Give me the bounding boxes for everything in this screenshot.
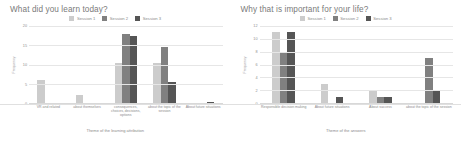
- legend-swatch-icon: [300, 16, 305, 21]
- legend-item-right-1[interactable]: Session 1: [300, 16, 326, 21]
- legend-label: Session 1: [307, 16, 325, 21]
- legend-label: Session 1: [77, 16, 95, 21]
- legend-swatch-icon: [102, 16, 107, 21]
- bars-plot-left: [29, 26, 223, 104]
- x-tick-label: VR and related: [29, 105, 68, 118]
- y-tick-label: 10: [253, 37, 257, 41]
- gridline: [29, 84, 223, 85]
- gridline: [29, 65, 223, 66]
- y-tick-label: 8: [255, 50, 257, 54]
- gridline: [260, 77, 454, 78]
- bar: [76, 95, 84, 103]
- y-tick-label: 20: [23, 24, 27, 28]
- bar: [321, 84, 329, 103]
- chart-panel-right: Why that is important for your life? Ses…: [231, 0, 461, 147]
- bar: [168, 82, 176, 103]
- bar: [287, 32, 295, 103]
- bar: [272, 32, 280, 103]
- bar: [433, 90, 441, 103]
- legend-label: Session 3: [373, 16, 391, 21]
- plot-area-right: Frequency 024681012: [231, 26, 461, 104]
- x-axis-label-right: Theme of the answers: [231, 128, 461, 133]
- y-tick-label: 12: [253, 24, 257, 28]
- y-tick-label: 6: [255, 63, 257, 67]
- x-axis-ticks-left: VR and relatedabout themselvesconsequenc…: [29, 105, 223, 118]
- legend-item-right-2[interactable]: Session 2: [333, 16, 359, 21]
- gridline: [29, 45, 223, 46]
- bar: [207, 102, 215, 103]
- legend-item-left-2[interactable]: Session 2: [102, 16, 128, 21]
- chart-title-right: Why that is important for your life?: [241, 5, 369, 14]
- legend-swatch-icon: [366, 16, 371, 21]
- y-tick-label: 5: [25, 83, 27, 87]
- x-tick-label: About success: [356, 105, 404, 109]
- chart-panel-left: What did you learn today? Session 1Sessi…: [0, 0, 231, 147]
- chart-title-left: What did you learn today?: [10, 5, 108, 14]
- y-tick-label: 15: [23, 44, 27, 48]
- gridline: [260, 39, 454, 40]
- legend-item-right-3[interactable]: Session 3: [366, 16, 392, 21]
- x-tick-label: about themselves: [68, 105, 107, 118]
- chart-legend-left: Session 1Session 2Session 3: [0, 16, 231, 21]
- y-tick-label: 2: [255, 89, 257, 93]
- x-axis-label-left: Theme of the learning attribution: [0, 128, 231, 133]
- x-tick-label: about the topic of the session: [145, 105, 184, 118]
- gridline: [260, 65, 454, 66]
- bar: [369, 90, 377, 103]
- bar: [336, 97, 344, 103]
- legend-item-left-1[interactable]: Session 1: [69, 16, 95, 21]
- bars-plot-right: [260, 26, 454, 104]
- x-tick-label: about the topic of the session: [405, 105, 453, 109]
- x-tick-label: consequences, choices, decisions, option…: [106, 105, 145, 118]
- bar: [161, 47, 169, 103]
- legend-swatch-icon: [135, 16, 140, 21]
- x-axis-ticks-right: Responsible decision makingAbout future …: [260, 105, 454, 109]
- legend-swatch-icon: [69, 16, 74, 21]
- y-axis-ticks-left: 05101520: [14, 26, 28, 104]
- x-tick-label: Responsible decision making: [260, 105, 308, 109]
- legend-label: Session 2: [110, 16, 128, 21]
- legend-item-left-3[interactable]: Session 3: [135, 16, 161, 21]
- bar: [377, 97, 385, 103]
- x-tick-label: About future situations: [184, 105, 223, 118]
- gridline: [260, 52, 454, 53]
- legend-label: Session 3: [143, 16, 161, 21]
- y-axis-ticks-right: 024681012: [245, 26, 259, 104]
- legend-swatch-icon: [333, 16, 338, 21]
- bar: [384, 97, 392, 103]
- plot-area-left: Frequency 05101520: [0, 26, 231, 104]
- legend-label: Session 2: [340, 16, 358, 21]
- gridline: [260, 90, 454, 91]
- gridline: [260, 26, 454, 27]
- chart-legend-right: Session 1Session 2Session 3: [231, 16, 461, 21]
- bar: [122, 34, 130, 103]
- gridline: [29, 26, 223, 27]
- x-tick-label: About future situations: [308, 105, 356, 109]
- y-tick-label: 4: [255, 76, 257, 80]
- y-tick-label: 10: [23, 63, 27, 67]
- figure-container: What did you learn today? Session 1Sessi…: [0, 0, 461, 147]
